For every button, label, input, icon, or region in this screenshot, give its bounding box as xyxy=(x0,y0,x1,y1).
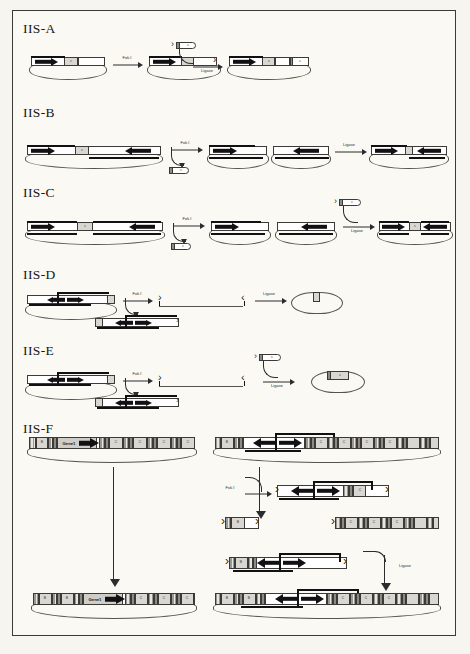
double-head-arrow-left xyxy=(47,296,65,304)
reaction-label-ligase: Ligase xyxy=(399,563,411,568)
gene-orientation-arrow xyxy=(293,147,319,155)
array-cell-label: C xyxy=(140,597,142,600)
reaction-label-ligase: Ligase xyxy=(201,68,213,73)
array-cell-label: B xyxy=(44,597,46,600)
reaction-label-fok-i: Fok I xyxy=(226,485,235,490)
gene-orientation-arrow xyxy=(417,147,441,155)
array-cell-label: B xyxy=(248,597,250,600)
array-cell-label: C xyxy=(396,521,398,524)
gene-orientation-arrow xyxy=(153,58,177,66)
ligase-branch-curve xyxy=(363,551,386,562)
double-head-arrow-right xyxy=(67,296,85,304)
array-cell-label: C xyxy=(115,441,117,444)
gene-orientation-arrow xyxy=(35,58,59,66)
array-cell-label: B xyxy=(237,521,239,524)
array-cell-label: C xyxy=(139,441,141,444)
panel-label-iis-f: IIS-F xyxy=(23,421,54,437)
gene-orientation-arrow xyxy=(213,147,239,155)
reaction-label-ligase: Ligase xyxy=(271,383,283,388)
gene-orientation-arrow xyxy=(31,147,57,155)
gene-orientation-arrow xyxy=(79,438,99,448)
array-cell-label: C xyxy=(366,441,368,444)
panel-label-iis-c: IIS-C xyxy=(23,185,55,201)
array-cell-label: C xyxy=(388,597,390,600)
array-cell-label: C xyxy=(389,441,391,444)
panel-label-iis-d: IIS-D xyxy=(23,267,56,283)
array-cell-label: B xyxy=(226,597,228,600)
reaction-label-fok-i: Fok I xyxy=(133,371,142,376)
reaction-label-fok-i: Fok I xyxy=(183,216,192,221)
panel-iis-f: IIS-F B Gene1 C xyxy=(13,415,457,637)
reaction-label-ligase: Ligase xyxy=(343,142,355,147)
array-cell-label: C xyxy=(163,441,165,444)
reaction-label-ligase: Ligase xyxy=(351,228,363,233)
gene-label: Gene1 xyxy=(89,597,102,602)
array-cell-label: C xyxy=(186,597,188,600)
double-head-arrow-right xyxy=(279,438,303,449)
array-cell-label: C xyxy=(343,441,345,444)
reaction-arrow-ligase xyxy=(255,297,287,304)
array-cell-label: C xyxy=(187,441,189,444)
array-cell-label: C xyxy=(365,597,367,600)
array-cell-label: C xyxy=(350,521,352,524)
flow-arrow-right-2 xyxy=(384,555,385,583)
reaction-label-ligase: Ligase xyxy=(263,291,275,296)
array-cell-label: B xyxy=(226,441,228,444)
reaction-label-fok-i: Fok I xyxy=(181,140,190,145)
array-cell-label: C xyxy=(320,441,322,444)
reaction-arrow-fok-i xyxy=(113,61,143,68)
flow-arrow-left xyxy=(113,467,114,579)
figure-page: IIS-A c Fok I xyxy=(0,0,470,654)
panel-iis-a: IIS-A c Fok I xyxy=(13,11,457,97)
array-cell-label: B xyxy=(240,561,242,564)
panel-label-iis-b: IIS-B xyxy=(23,105,55,121)
panel-iis-c: IIS-C c xyxy=(13,177,457,259)
panel-label-iis-a: IIS-A xyxy=(23,21,56,37)
reaction-arrow-ligase xyxy=(335,148,367,155)
panel-label-iis-e: IIS-E xyxy=(23,343,54,359)
gene-orientation-arrow xyxy=(105,594,125,604)
figure-sheet: IIS-A c Fok I xyxy=(12,10,456,636)
gene-label: Gene1 xyxy=(63,441,76,446)
gene-orientation-arrow xyxy=(375,147,399,155)
panel-iis-e: IIS-E Fok I xyxy=(13,335,457,415)
array-cell-label: C xyxy=(359,489,361,492)
gene-orientation-arrow xyxy=(125,147,151,155)
array-cell-label: C xyxy=(163,597,165,600)
reaction-label-fok-i: Fok I xyxy=(133,291,142,296)
linear-backbone-line xyxy=(159,306,243,307)
gene-orientation-arrow xyxy=(233,58,257,66)
array-cell-label: B xyxy=(66,597,68,600)
array-cell-label: C xyxy=(342,597,344,600)
reaction-arrow-fok-i xyxy=(245,490,273,497)
panel-iis-b: IIS-B c xyxy=(13,97,457,177)
reaction-label-fok-i: Fok I xyxy=(123,55,132,60)
panel-iis-d: IIS-D Fok I xyxy=(13,259,457,335)
array-cell-label: B xyxy=(41,441,43,444)
array-cell-label: C xyxy=(373,521,375,524)
double-head-arrow-left xyxy=(253,438,275,449)
